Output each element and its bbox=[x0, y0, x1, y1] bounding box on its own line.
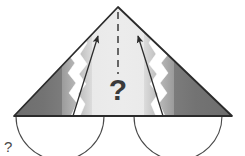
semicircle-arc-right bbox=[134, 116, 222, 156]
triangle-diagram-svg: ? ? bbox=[0, 0, 245, 156]
arc-group bbox=[16, 116, 222, 156]
corner-question-mark: ? bbox=[4, 138, 12, 155]
figure-canvas: ? ? bbox=[0, 0, 245, 156]
center-question-mark: ? bbox=[109, 73, 127, 106]
band-right-dark bbox=[174, 0, 245, 116]
semicircle-arc-left bbox=[16, 116, 104, 156]
